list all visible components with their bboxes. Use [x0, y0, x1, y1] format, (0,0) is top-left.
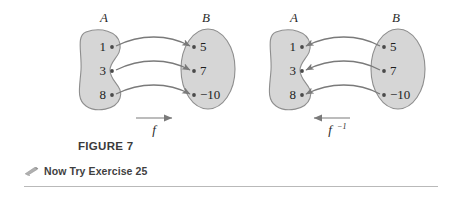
set-b-label-inverse: B: [392, 10, 400, 25]
element-dot-b-7-inverse: [382, 69, 386, 73]
element-dot-b-5: [192, 45, 196, 49]
element-dot-b-10: [192, 93, 196, 97]
mapping-arrow-3-to-7: [116, 61, 190, 70]
element-label-b-7: 7: [200, 63, 207, 78]
mapping-arrow-10-to-8: [306, 85, 380, 94]
element-label-b-5: 5: [200, 39, 207, 54]
element-dot-a-1: [110, 45, 114, 49]
section-divider: [24, 186, 438, 187]
element-dot-a-8-inverse: [300, 93, 304, 97]
now-try-exercise-row[interactable]: Now Try Exercise 25: [24, 165, 147, 177]
element-label-a-8: 8: [100, 87, 107, 102]
element-dot-b-10-inverse: [382, 93, 386, 97]
set-b-label: B: [202, 10, 210, 25]
figure-panel: A B 1 3 8 5 7 −10 f A B: [0, 0, 459, 200]
element-label-b-5-inverse: 5: [390, 39, 397, 54]
function-label-f-inverse: f: [328, 122, 334, 137]
mapping-arrow-7-to-3: [306, 61, 380, 70]
element-label-a-1: 1: [100, 39, 107, 54]
diagram-forward-mapping: A B 1 3 8 5 7 −10 f: [79, 10, 235, 137]
element-dot-a-1-inverse: [300, 45, 304, 49]
element-dot-a-8: [110, 93, 114, 97]
now-try-exercise-label: Now Try Exercise 25: [44, 165, 147, 177]
figure-caption: FIGURE 7: [78, 140, 133, 152]
element-dot-b-7: [192, 69, 196, 73]
mapping-arrow-5-to-1: [306, 37, 380, 46]
element-dot-a-3-inverse: [300, 69, 304, 73]
element-label-b-10: −10: [200, 87, 220, 102]
function-label-f: f: [152, 122, 158, 137]
mapping-arrow-8-to-10: [116, 85, 190, 94]
element-label-b-10-inverse: −10: [390, 87, 410, 102]
element-label-b-7-inverse: 7: [390, 63, 397, 78]
element-label-a-1-inverse: 1: [290, 39, 297, 54]
element-label-a-3-inverse: 3: [290, 63, 297, 78]
diagram-inverse-mapping: A B 1 3 8 5 7 −10 f −1: [269, 10, 425, 137]
mapping-arrow-1-to-5: [116, 37, 190, 46]
element-dot-a-3: [110, 69, 114, 73]
element-dot-b-5-inverse: [382, 45, 386, 49]
element-label-a-8-inverse: 8: [290, 87, 297, 102]
pencil-icon: [24, 166, 40, 176]
element-label-a-3: 3: [100, 63, 107, 78]
set-a-label-inverse: A: [289, 10, 298, 25]
function-exponent-inverse: −1: [337, 122, 346, 131]
set-a-label: A: [99, 10, 108, 25]
